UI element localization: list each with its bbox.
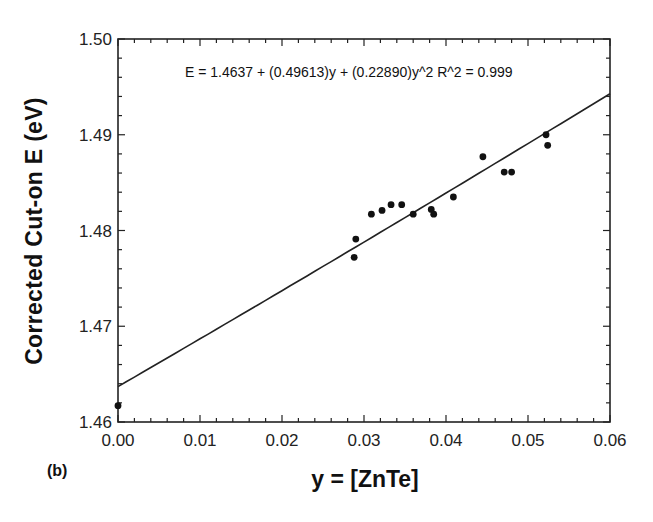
data-point [115,402,122,409]
data-point [544,142,551,149]
data-point [388,201,395,208]
panel-label: (b) [47,462,67,480]
data-point [351,254,358,261]
data-point [368,211,375,218]
plot-frame [118,39,610,422]
data-point [352,236,359,243]
data-point [508,169,515,176]
x-axis-label: y = [ZnTe] [275,466,455,493]
data-point [450,194,457,201]
data-point [410,211,417,218]
fit-curve [118,94,610,387]
data-point [379,207,386,214]
fit-equation-annotation: E = 1.4637 + (0.49613)y + (0.22890)y^2 R… [185,64,513,80]
x-tick-label: 0.05 [511,431,544,450]
x-tick-label: 0.01 [183,431,216,450]
x-tick-label: 0.00 [101,431,134,450]
x-tick-label: 0.02 [265,431,298,450]
data-point [501,169,508,176]
data-point [430,211,437,218]
y-tick-label: 1.48 [79,222,112,241]
x-tick-label: 0.06 [593,431,626,450]
data-point [543,131,550,138]
y-tick-label: 1.47 [79,317,112,336]
y-tick-label: 1.50 [79,30,112,49]
x-tick-label: 0.03 [347,431,380,450]
data-point [398,201,405,208]
data-point [480,153,487,160]
y-tick-label: 1.49 [79,126,112,145]
x-tick-label: 0.04 [429,431,462,450]
y-axis-label-container: Corrected Cut-on E (eV) [14,40,54,422]
y-axis-label: Corrected Cut-on E (eV) [21,97,48,365]
y-tick-label: 1.46 [79,413,112,432]
